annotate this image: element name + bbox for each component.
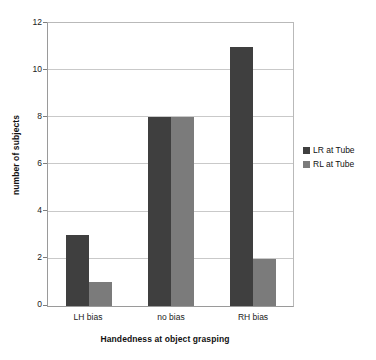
bar-rh-bias-lr-at-tube	[230, 47, 253, 306]
legend-label-lr-at-tube: LR at Tube	[313, 146, 355, 155]
bar-rh-bias-rl-at-tube	[253, 259, 276, 306]
gridline-10	[48, 69, 293, 70]
legend-label-rl-at-tube: RL at Tube	[313, 160, 354, 169]
bar-chart: number of subjects 12 10 8 6 4 2 0 LH bi…	[0, 0, 376, 360]
y-tick-label-8: 8	[16, 112, 42, 121]
legend-swatch-icon-rl	[303, 161, 310, 168]
y-tick-label-12: 12	[16, 18, 42, 27]
bar-no-bias-lr-at-tube	[148, 117, 171, 306]
legend-item-rl-at-tube: RL at Tube	[303, 158, 373, 170]
y-tick-label-6: 6	[16, 159, 42, 168]
x-axis-title: Handedness at object grasping	[0, 334, 330, 344]
legend-item-lr-at-tube: LR at Tube	[303, 144, 373, 156]
x-tick-label-lh-bias: LH bias	[48, 312, 128, 322]
x-tick-label-rh-bias: RH bias	[213, 312, 293, 322]
x-tick-label-no-bias: no bias	[131, 312, 211, 322]
y-tick-label-10: 10	[16, 65, 42, 74]
chart-legend: LR at Tube RL at Tube	[303, 144, 373, 172]
y-tick-label-2: 2	[16, 253, 42, 262]
y-tick-label-0: 0	[16, 300, 42, 309]
legend-swatch-icon-lr	[303, 147, 310, 154]
y-tick-label-4: 4	[16, 206, 42, 215]
bar-lh-bias-rl-at-tube	[89, 282, 112, 306]
bar-lh-bias-lr-at-tube	[66, 235, 89, 306]
plot-area	[47, 22, 294, 307]
bar-no-bias-rl-at-tube	[171, 117, 194, 306]
